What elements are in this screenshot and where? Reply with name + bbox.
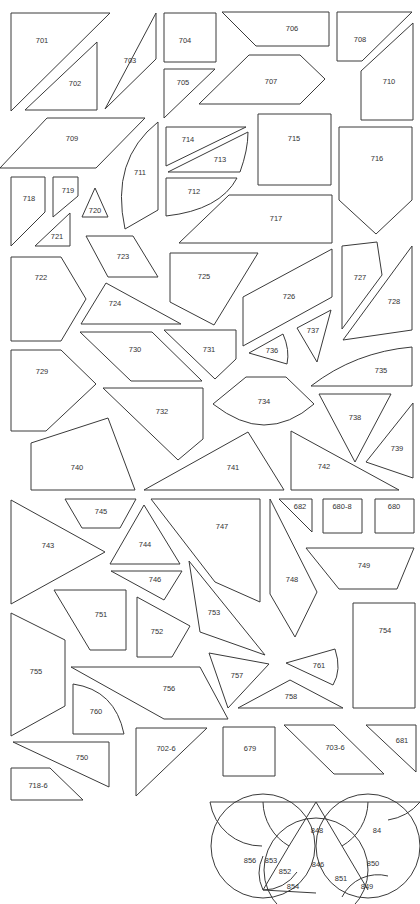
piece-718[interactable]: 718 <box>11 177 45 246</box>
pieces-layer: 7017027037047057067077087097107117127137… <box>0 12 416 800</box>
rosette-labels: 84884856853852846850851854849 <box>244 826 381 891</box>
rosette-region-label: 852 <box>279 867 292 876</box>
piece-shape[interactable] <box>199 55 325 104</box>
piece-shape[interactable] <box>53 177 78 217</box>
piece-shape[interactable] <box>137 597 190 657</box>
piece-758[interactable]: 758 <box>238 680 343 708</box>
piece-705[interactable]: 705 <box>164 69 215 118</box>
piece-702-6[interactable]: 702-6 <box>136 728 207 796</box>
piece-shape[interactable] <box>213 377 314 425</box>
piece-shape[interactable] <box>375 499 414 533</box>
piece-shape[interactable] <box>258 114 331 185</box>
piece-shape[interactable] <box>297 310 331 362</box>
rosette-figure: 84884856853852846850851854849 <box>210 794 420 904</box>
piece-shape[interactable] <box>86 236 158 277</box>
piece-723[interactable]: 723 <box>86 236 158 277</box>
rosette-region-label: 850 <box>367 859 380 868</box>
piece-724[interactable]: 724 <box>81 283 181 324</box>
piece-706[interactable]: 706 <box>222 12 329 46</box>
piece-shape[interactable] <box>65 499 136 528</box>
piece-734[interactable]: 734 <box>213 377 314 425</box>
piece-745[interactable]: 745 <box>65 499 136 528</box>
pieces-diagram: 7017027037047057067077087097107117127137… <box>0 0 420 904</box>
piece-shape[interactable] <box>286 649 338 685</box>
piece-704[interactable]: 704 <box>164 13 216 62</box>
piece-722[interactable]: 722 <box>11 257 86 341</box>
piece-680[interactable]: 680 <box>375 499 414 533</box>
piece-shape[interactable] <box>81 283 181 324</box>
piece-shape[interactable] <box>306 548 414 589</box>
rosette-region-label: 851 <box>335 874 348 883</box>
piece-680-8[interactable]: 680-8 <box>323 499 362 533</box>
piece-752[interactable]: 752 <box>137 597 190 657</box>
piece-shape[interactable] <box>311 347 412 386</box>
piece-761[interactable]: 761 <box>286 649 338 685</box>
piece-shape[interactable] <box>11 768 83 800</box>
piece-shape[interactable] <box>339 127 412 234</box>
piece-735[interactable]: 735 <box>311 347 412 386</box>
piece-749[interactable]: 749 <box>306 548 414 589</box>
piece-shape[interactable] <box>353 603 415 708</box>
piece-719[interactable]: 719 <box>53 177 78 217</box>
piece-709[interactable]: 709 <box>0 118 145 168</box>
piece-shape[interactable] <box>284 725 384 774</box>
piece-707[interactable]: 707 <box>199 55 325 104</box>
rosette-region-label: 854 <box>287 882 300 891</box>
piece-shape[interactable] <box>164 69 215 118</box>
piece-718-6[interactable]: 718-6 <box>11 768 83 800</box>
diagram-canvas: 7017027037047057067077087097107117127137… <box>0 0 420 904</box>
piece-shape[interactable] <box>121 122 158 229</box>
piece-737[interactable]: 737 <box>297 310 331 362</box>
rosette-region-label: 849 <box>361 882 374 891</box>
piece-754[interactable]: 754 <box>353 603 415 708</box>
rosette-region-label: 856 <box>244 856 257 865</box>
piece-shape[interactable] <box>82 188 108 217</box>
rosette-region-label: 84 <box>373 826 381 835</box>
piece-shape[interactable] <box>11 177 45 246</box>
piece-716[interactable]: 716 <box>339 127 412 234</box>
piece-703-6[interactable]: 703-6 <box>284 725 384 774</box>
piece-755[interactable]: 755 <box>11 613 65 736</box>
piece-shape[interactable] <box>238 680 343 708</box>
piece-shape[interactable] <box>223 727 275 776</box>
rosette-region-label: 853 <box>265 856 278 865</box>
piece-shape[interactable] <box>11 350 96 431</box>
piece-shape[interactable] <box>11 613 65 736</box>
piece-shape[interactable] <box>105 13 156 109</box>
piece-679[interactable]: 679 <box>223 727 275 776</box>
piece-shape[interactable] <box>222 12 329 46</box>
piece-shape[interactable] <box>136 728 207 796</box>
piece-shape[interactable] <box>323 499 362 533</box>
piece-729[interactable]: 729 <box>11 350 96 431</box>
piece-711[interactable]: 711 <box>121 122 158 229</box>
piece-shape[interactable] <box>11 257 86 341</box>
piece-703[interactable]: 703 <box>105 13 156 109</box>
piece-715[interactable]: 715 <box>258 114 331 185</box>
piece-720[interactable]: 720 <box>82 188 108 217</box>
piece-shape[interactable] <box>164 13 216 62</box>
piece-shape[interactable] <box>0 118 145 168</box>
